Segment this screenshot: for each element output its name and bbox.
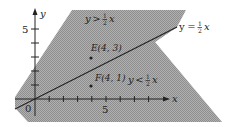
y-axis-arrow-icon [33, 8, 38, 15]
y-tick-label-5: 5 [22, 24, 28, 35]
svg-text:2: 2 [103, 19, 107, 26]
boundary-line-label: y = 1 2 x [178, 20, 210, 34]
svg-text:<: < [132, 74, 147, 85]
svg-text:1: 1 [198, 20, 202, 27]
svg-text:=: = [184, 21, 199, 32]
point-f-label: F(4, 1) [94, 73, 126, 83]
point-e-label: E(4, 3) [90, 43, 122, 53]
upper-region-label: y > 1 2 x [84, 12, 115, 26]
point-f-marker [89, 84, 92, 87]
svg-text:1: 1 [146, 73, 150, 80]
origin-label: 0 [25, 103, 31, 114]
x-axis-label: x [172, 93, 178, 104]
graph-canvas: 5 0 5 y x y > 1 2 x y = 1 2 x E(4, 3) F(… [0, 0, 231, 127]
point-e-marker [89, 56, 92, 59]
svg-text:x: x [152, 74, 158, 85]
svg-text:2: 2 [198, 27, 202, 34]
svg-text:1: 1 [103, 12, 107, 19]
svg-text:x: x [109, 13, 115, 24]
x-tick-label-5: 5 [102, 104, 108, 115]
lower-region-label: y < 1 2 x [127, 73, 158, 87]
svg-text:2: 2 [146, 80, 150, 87]
svg-text:x: x [204, 21, 210, 32]
y-axis-label: y [39, 8, 46, 19]
inequality-graph: 5 0 5 y x y > 1 2 x y = 1 2 x E(4, 3) F(… [0, 0, 231, 127]
svg-text:>: > [89, 13, 104, 24]
